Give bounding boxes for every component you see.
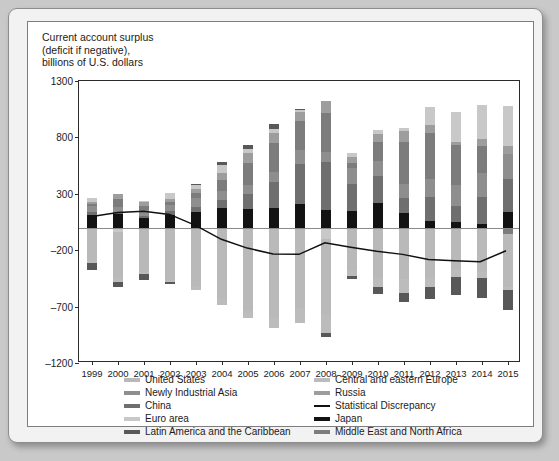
- legend-item-label: Latin America and the Caribbean: [145, 426, 291, 437]
- x-axis-tick: [352, 361, 353, 365]
- legend-swatch-icon: [124, 404, 140, 408]
- y-axis-tick-label: –200: [51, 245, 73, 256]
- y-axis-tick-label: –700: [51, 301, 73, 312]
- legend-item-label: Russia: [335, 387, 366, 398]
- x-axis-tick: [144, 361, 145, 365]
- chart-legend: United StatesCentral and eastern EuropeN…: [124, 374, 524, 437]
- y-axis-tick: [75, 363, 79, 364]
- y-axis-tick: [75, 81, 79, 82]
- y-axis-tick-label: –1200: [45, 358, 73, 369]
- legend-item[interactable]: Euro area: [124, 413, 300, 424]
- legend-item-label: Japan: [335, 413, 362, 424]
- x-axis-tick: [430, 361, 431, 365]
- x-axis-tick: [222, 361, 223, 365]
- x-axis-tick: [378, 361, 379, 365]
- x-axis-tick: [456, 361, 457, 365]
- legend-swatch-icon: [124, 378, 140, 382]
- x-axis-tick: [508, 361, 509, 365]
- window-frame: Current account surplus (deficit if nega…: [8, 8, 543, 443]
- legend-item-label: China: [145, 400, 171, 411]
- legend-item-label: Statistical Discrepancy: [335, 400, 436, 411]
- x-axis-tick: [482, 361, 483, 365]
- legend-item[interactable]: Russia: [314, 387, 514, 398]
- statistical-discrepancy-line: [79, 81, 519, 362]
- y-axis-tick: [75, 307, 79, 308]
- legend-item-label: Middle East and North Africa: [335, 426, 462, 437]
- chart-card: Current account surplus (deficit if nega…: [27, 21, 534, 427]
- x-axis-tick: [118, 361, 119, 365]
- legend-item[interactable]: Japan: [314, 413, 514, 424]
- legend-item[interactable]: Central and eastern Europe: [314, 374, 514, 385]
- legend-swatch-icon: [314, 391, 330, 395]
- plot-area: 1300800300–200–700–120019992000200120022…: [78, 80, 520, 362]
- x-axis-tick: [196, 361, 197, 365]
- x-axis-tick: [92, 361, 93, 365]
- legend-item[interactable]: Middle East and North Africa: [314, 426, 514, 437]
- x-axis-tick: [326, 361, 327, 365]
- y-axis-tick: [75, 194, 79, 195]
- x-axis-tick: [274, 361, 275, 365]
- legend-item[interactable]: Statistical Discrepancy: [314, 400, 514, 411]
- y-axis-tick-label: 1300: [51, 76, 73, 87]
- y-axis-tick-label: 800: [56, 132, 73, 143]
- legend-item[interactable]: United States: [124, 374, 300, 385]
- chart-title: Current account surplus (deficit if nega…: [42, 31, 302, 69]
- x-axis-tick: [300, 361, 301, 365]
- x-axis-tick: [404, 361, 405, 365]
- y-axis-tick-label: 300: [56, 188, 73, 199]
- y-axis-tick: [75, 250, 79, 251]
- legend-swatch-icon: [124, 430, 140, 434]
- legend-item-label: Central and eastern Europe: [335, 374, 458, 385]
- legend-item-label: United States: [145, 374, 205, 385]
- legend-item[interactable]: Newly Industrial Asia: [124, 387, 300, 398]
- legend-swatch-icon: [124, 417, 140, 421]
- legend-item[interactable]: Latin America and the Caribbean: [124, 426, 300, 437]
- x-axis-tick: [248, 361, 249, 365]
- legend-item-label: Newly Industrial Asia: [145, 387, 237, 398]
- legend-swatch-icon: [314, 430, 330, 434]
- legend-item[interactable]: China: [124, 400, 300, 411]
- x-axis-tick: [170, 361, 171, 365]
- legend-swatch-icon: [314, 417, 330, 421]
- discrepancy-polyline: [92, 211, 506, 261]
- legend-item-label: Euro area: [145, 413, 189, 424]
- y-axis-tick: [75, 137, 79, 138]
- legend-swatch-icon: [124, 391, 140, 395]
- x-axis-tick-label: 1999: [81, 368, 102, 379]
- legend-swatch-icon: [314, 405, 330, 407]
- legend-swatch-icon: [314, 378, 330, 382]
